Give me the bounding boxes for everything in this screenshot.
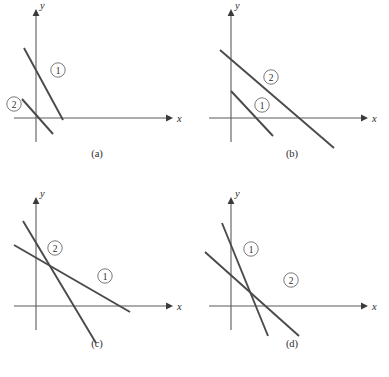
x-axis-label-c: x	[176, 301, 182, 312]
line-badge-label-1-panel-b: 1	[260, 101, 265, 111]
x-axis-arrow-icon-a	[166, 115, 173, 122]
x-axis-label-a: x	[176, 113, 182, 124]
data-line-1-panel-d	[222, 223, 268, 336]
data-line-2-panel-b	[220, 50, 334, 148]
x-axis-arrow-icon-b	[361, 115, 368, 122]
graph-panel-b: xy21(b)	[195, 0, 389, 188]
x-axis-arrow-icon-c	[166, 303, 173, 310]
line-badge-label-2-panel-d: 2	[289, 276, 294, 286]
y-axis-label-b: y	[234, 0, 240, 11]
line-badge-label-2-panel-c: 2	[53, 244, 58, 254]
y-axis-arrow-icon-b	[228, 9, 235, 16]
data-line-2-panel-d	[205, 252, 299, 336]
line-badge-label-2-panel-b: 2	[269, 73, 274, 83]
graph-canvas-b: xy21	[195, 0, 389, 188]
graph-panel-c: xy21(c)	[0, 188, 194, 376]
data-line-1-panel-b	[231, 91, 273, 136]
line-badge-label-1-panel-a: 1	[56, 66, 61, 76]
panel-caption-b: (b)	[195, 148, 389, 159]
graph-panel-a: xy12(a)	[0, 0, 194, 188]
figure-four-line-graph-panels: xy12(a)xy21(b)xy21(c)xy12(d)	[0, 0, 389, 377]
line-badge-label-1-panel-c: 1	[103, 272, 108, 282]
data-line-2-panel-c	[23, 221, 96, 343]
y-axis-arrow-icon-a	[33, 9, 40, 16]
y-axis-label-d: y	[234, 188, 240, 199]
y-axis-arrow-icon-c	[33, 197, 40, 204]
panel-caption-d: (d)	[195, 338, 389, 349]
line-badge-label-1-panel-d: 1	[249, 245, 254, 255]
x-axis-label-d: x	[371, 301, 377, 312]
graph-panel-d: xy12(d)	[195, 188, 389, 376]
data-line-2-panel-a	[22, 99, 53, 134]
y-axis-arrow-icon-d	[228, 197, 235, 204]
panel-caption-c: (c)	[0, 338, 194, 349]
y-axis-label-c: y	[39, 188, 45, 199]
x-axis-label-b: x	[371, 113, 377, 124]
x-axis-arrow-icon-d	[361, 303, 368, 310]
panel-caption-a: (a)	[0, 148, 194, 159]
y-axis-label-a: y	[39, 0, 45, 11]
graph-canvas-a: xy12	[0, 0, 194, 188]
line-badge-label-2-panel-a: 2	[12, 100, 17, 110]
